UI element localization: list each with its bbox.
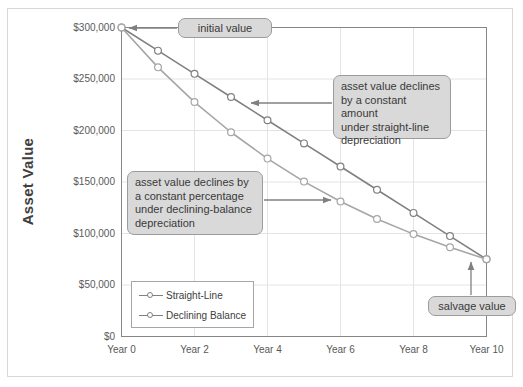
callout-connectors [129, 28, 471, 295]
callout-straight-line-3: under straight-line [341, 121, 443, 135]
y-axis-tick-label: $100,000 [36, 228, 115, 239]
callout-straight-line-1: asset value declines [341, 80, 443, 94]
y-axis-tick-label: $200,000 [36, 125, 115, 136]
x-axis-tick-label: Year 10 [452, 344, 522, 355]
callout-salvage-value-text: salvage value [438, 300, 505, 312]
chart-legend: Straight-Line Declining Balance [131, 281, 254, 328]
x-axis-tick-label: Year 4 [233, 344, 303, 355]
callout-initial-value: initial value [178, 18, 272, 38]
callout-straight-line: asset value declines by a constant amoun… [333, 75, 451, 139]
legend-label-straight-line: Straight-Line [166, 290, 223, 301]
callout-straight-line-4: depreciation [341, 134, 443, 148]
x-axis-tick-label: Year 6 [306, 344, 376, 355]
callout-initial-value-text: initial value [198, 22, 252, 34]
callout-declining-balance-4: depreciation [135, 217, 255, 231]
callout-declining-balance-1: asset value declines by [135, 176, 255, 190]
legend-marker-straight-line [139, 291, 163, 300]
legend-item-declining-balance: Declining Balance [139, 310, 246, 321]
y-axis-tick-label: $300,000 [36, 22, 115, 33]
callout-declining-balance-3: under declining-balance [135, 203, 255, 217]
chart-screenshot: Asset Value $0$50,000$100,000$150,000$20… [0, 0, 523, 387]
callout-salvage-value: salvage value [428, 296, 516, 316]
callout-declining-balance-2: a constant percentage [135, 190, 255, 204]
y-axis-tick-label: $150,000 [36, 176, 115, 187]
y-axis-tick-label: $250,000 [36, 73, 115, 84]
y-axis-tick-label: $50,000 [36, 279, 115, 290]
legend-marker-declining-balance [139, 311, 163, 320]
x-axis-tick-label: Year 0 [87, 344, 157, 355]
y-axis-tick-label: $0 [36, 331, 115, 342]
legend-item-straight-line: Straight-Line [139, 290, 223, 301]
x-axis-tick-label: Year 2 [160, 344, 230, 355]
callout-straight-line-2: by a constant amount [341, 94, 443, 121]
y-axis-title: Asset Value [19, 122, 36, 242]
callout-declining-balance: asset value declines by a constant perce… [127, 171, 263, 235]
legend-label-declining-balance: Declining Balance [166, 310, 246, 321]
x-axis-tick-label: Year 8 [379, 344, 449, 355]
